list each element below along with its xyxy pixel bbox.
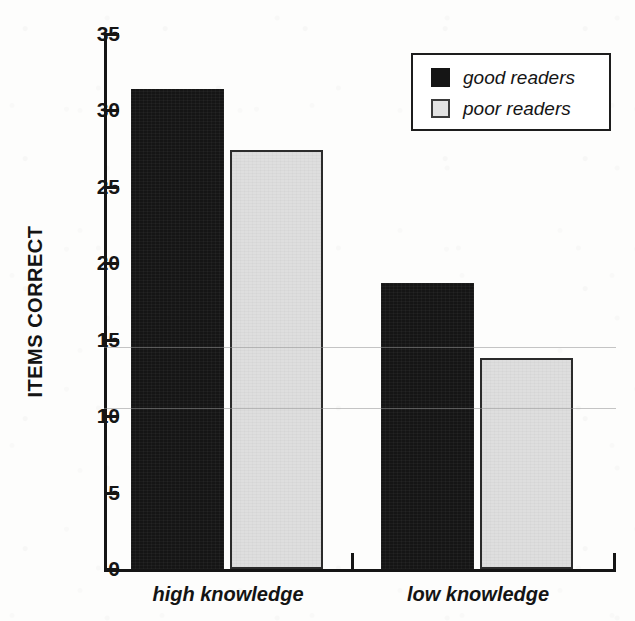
y-axis-tick-label-wrap: 0 xyxy=(30,569,120,570)
legend-item-poor-readers: poor readers xyxy=(431,93,609,124)
legend-item-good-readers: good readers xyxy=(431,62,609,93)
legend-swatch-poor-readers xyxy=(431,99,450,118)
legend-swatch-good-readers xyxy=(431,68,450,87)
bar-chart-figure: ITEMS CORRECT 35302520151050 high knowle… xyxy=(0,0,635,621)
x-axis-category-label: high knowledge xyxy=(118,583,338,606)
x-axis-category-label: low knowledge xyxy=(368,583,588,606)
bar-high-knowledge-good-readers xyxy=(131,89,224,569)
bar-high-knowledge-poor-readers xyxy=(230,150,323,569)
legend-label-poor-readers: poor readers xyxy=(463,98,571,120)
bar-low-knowledge-good-readers xyxy=(381,283,474,569)
chart-legend: good readers poor readers xyxy=(411,53,611,131)
legend-label-good-readers: good readers xyxy=(463,67,575,89)
x-axis-line xyxy=(104,569,616,572)
bar-low-knowledge-poor-readers xyxy=(480,358,573,569)
